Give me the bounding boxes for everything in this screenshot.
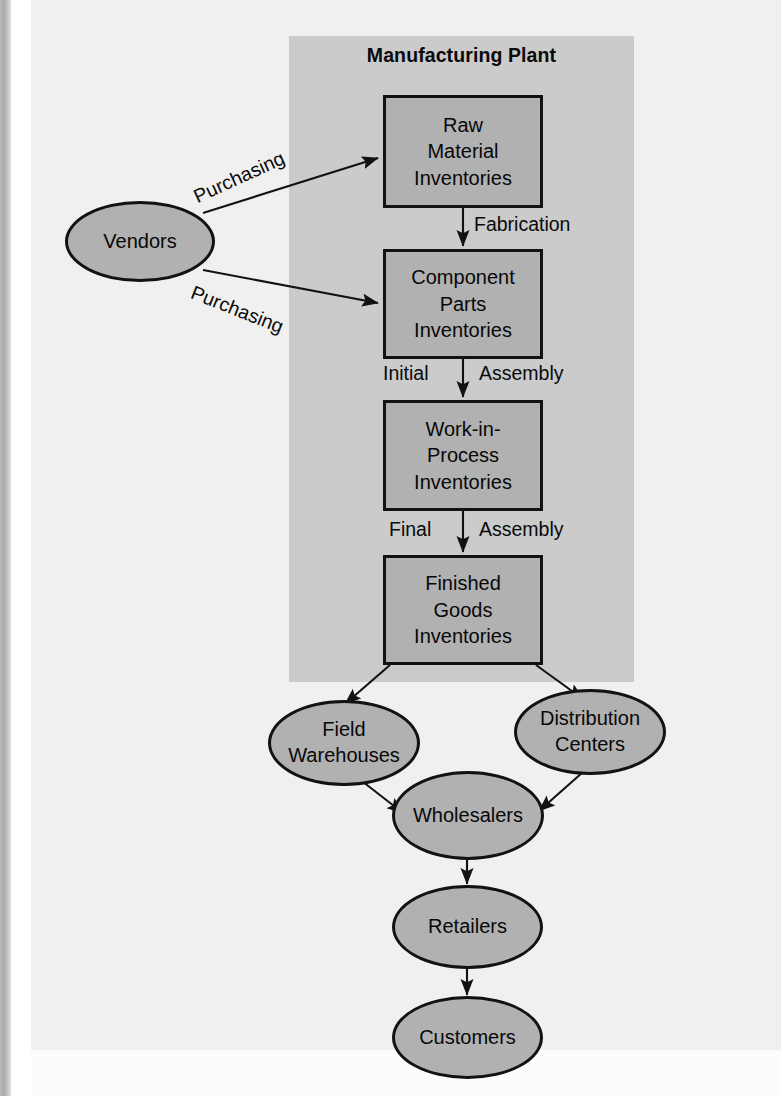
node-retailers[interactable]: Retailers — [392, 885, 543, 969]
node-distribution-centers[interactable]: Distribution Centers — [514, 689, 666, 775]
node-label: Finished Goods Inventories — [414, 570, 512, 649]
node-work-in-process-inventories[interactable]: Work-in- Process Inventories — [383, 400, 543, 511]
node-label: Vendors — [103, 229, 176, 255]
edge-finished-goods-to-field-warehouses — [345, 665, 390, 704]
edge-label-final: Final — [389, 518, 431, 541]
node-vendors[interactable]: Vendors — [65, 201, 215, 282]
node-label: Work-in- Process Inventories — [414, 416, 512, 495]
node-label: Distribution Centers — [540, 706, 640, 757]
node-finished-goods-inventories[interactable]: Finished Goods Inventories — [383, 555, 543, 665]
edge-label-assembly-final: Assembly — [479, 518, 564, 541]
node-label: Customers — [419, 1025, 516, 1051]
node-label: Wholesalers — [413, 803, 523, 829]
node-raw-material-inventories[interactable]: Raw Material Inventories — [383, 95, 543, 208]
node-label: Raw Material Inventories — [414, 112, 512, 191]
node-label: Retailers — [428, 914, 507, 940]
node-field-warehouses[interactable]: Field Warehouses — [268, 700, 420, 786]
node-label: Component Parts Inventories — [411, 264, 514, 343]
edge-label-assembly-initial: Assembly — [479, 362, 564, 385]
edge-label-fabrication: Fabrication — [474, 213, 570, 236]
node-customers[interactable]: Customers — [392, 996, 543, 1079]
diagram-canvas: Manufacturing Plant — [0, 0, 781, 1096]
node-component-parts-inventories[interactable]: Component Parts Inventories — [383, 249, 543, 359]
node-label: Field Warehouses — [288, 717, 400, 768]
node-wholesalers[interactable]: Wholesalers — [392, 771, 544, 860]
edge-label-initial: Initial — [383, 362, 429, 385]
edge-distribution-centers-to-wholesalers — [539, 772, 583, 811]
